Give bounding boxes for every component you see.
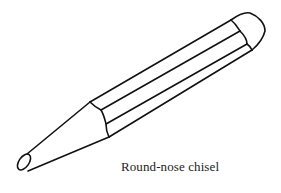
head-facet-line-3 (247, 44, 252, 50)
head-facet-line-2 (240, 31, 247, 44)
nose-bottom-edge (28, 137, 109, 171)
shaft-facet-2 (106, 44, 247, 124)
nose-top-edge (27, 102, 90, 154)
caption: Round-nose chisel (121, 159, 219, 175)
shaft-top-edge (90, 20, 231, 102)
head-facet-line-1 (231, 20, 240, 31)
